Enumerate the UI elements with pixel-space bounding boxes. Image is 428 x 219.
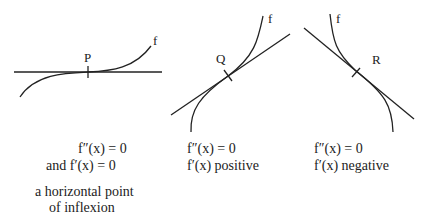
panel-positive-gradient [171,16,290,132]
caption-p-line2: and f′(x) = 0 [46,158,116,174]
tick-q [224,70,232,81]
caption-p-desc2: of inflexion [49,200,115,216]
caption-r-line2: f′(x) negative [314,158,389,174]
point-label-p: P [84,50,91,65]
caption-q-line2: f′(x) positive [187,158,259,174]
panel-negative-gradient [304,14,414,132]
point-label-q: Q [216,51,225,66]
caption-p-line1: f″(x) = 0 [78,141,127,157]
caption-q-line1: f″(x) = 0 [187,141,236,157]
curve-label-f-q: f [268,11,272,26]
caption-r-line1: f″(x) = 0 [314,141,363,157]
curve-f-r [330,14,393,132]
point-label-r: R [372,52,381,67]
curve-label-f-r: f [336,11,340,26]
caption-p-desc1: a horizontal point [35,184,134,200]
curve-label-f-p: f [153,33,157,48]
